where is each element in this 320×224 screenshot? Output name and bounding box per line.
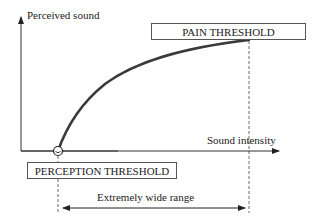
y-axis-label: Perceived sound [27, 9, 99, 21]
range-label: Extremely wide range [97, 191, 194, 203]
perception-threshold-box: PERCEPTION THRESHOLD [27, 162, 177, 179]
perception-threshold-marker [54, 147, 63, 156]
x-axis-label: Sound intensity [207, 134, 276, 146]
pain-threshold-box: PAIN THRESHOLD [151, 23, 306, 40]
